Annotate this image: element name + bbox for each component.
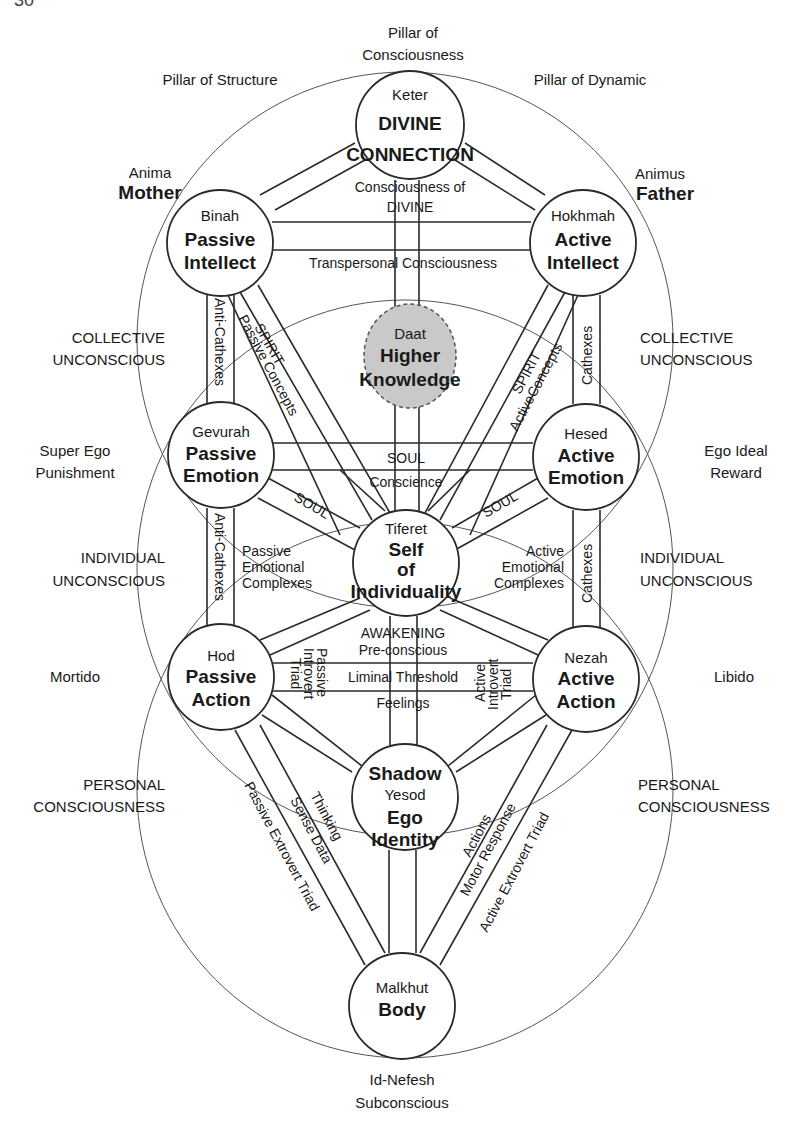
collective-left-line1: COLLECTIVE [72, 329, 165, 346]
cathexes-upper: Cathexes [579, 326, 595, 385]
gevurah-line1: Passive [186, 443, 257, 464]
keter-name: Keter [392, 86, 428, 103]
gevurah-name: Gevurah [192, 423, 250, 440]
hesed-line1: Active [557, 445, 614, 466]
tree-of-life-diagram: 30 [0, 0, 799, 1131]
individual-left-line1: INDIVIDUAL [81, 549, 165, 566]
tiferet-line3: Individuality [351, 581, 462, 602]
cathexes-lower: Cathexes [579, 544, 595, 603]
keter-line1: DIVINE [378, 113, 441, 134]
egoideal-line2: Reward [710, 464, 762, 481]
soul-center: SOUL [387, 450, 425, 466]
pillar-consciousness-line1: Pillar of [388, 24, 439, 41]
binah-line2: Intellect [184, 252, 256, 273]
soul-left: SOUL [292, 489, 333, 522]
yesod-line2: Identity [371, 829, 439, 850]
passive-emotional-line3: Complexes [242, 575, 312, 591]
individual-right-line1: INDIVIDUAL [640, 549, 724, 566]
binah-line1: Passive [185, 229, 256, 250]
tiferet-name: Tiferet [385, 520, 428, 537]
anti-cathexes-upper: Anti-Cathexes [212, 298, 228, 386]
binah-name: Binah [201, 207, 239, 224]
nezah-name: Nezah [564, 649, 607, 666]
feelings-label: Feelings [377, 695, 430, 711]
mortido-label: Mortido [50, 668, 100, 685]
collective-right-line2: UNCONSCIOUS [640, 351, 753, 368]
gevurah-line2: Emotion [183, 465, 259, 486]
personal-right-line1: PERSONAL [638, 776, 720, 793]
superego-line2: Punishment [35, 464, 115, 481]
hod-line1: Passive [186, 666, 257, 687]
daat-name: Daat [394, 325, 427, 342]
consciousness-of-divine-line1: Consciousness of [355, 179, 466, 195]
hesed-line2: Emotion [548, 467, 624, 488]
pillar-dynamic: Pillar of Dynamic [534, 71, 647, 88]
awakening-label: AWAKENING [361, 625, 446, 641]
hod-name: Hod [207, 647, 235, 664]
hod-line2: Action [191, 689, 250, 710]
tiferet-line2: of [397, 559, 416, 580]
superego-line1: Super Ego [40, 442, 111, 459]
personal-left-line2: CONSCIOUSNESS [33, 798, 165, 815]
animus-label: Animus [635, 165, 685, 182]
yesod-line1: Ego [387, 807, 423, 828]
libido-label: Libido [714, 668, 754, 685]
pillar-consciousness-line2: Consciousness [362, 46, 464, 63]
active-emotional-line1: Active [526, 543, 564, 559]
page-number: 30 [14, 0, 34, 10]
preconscious-label: Pre-conscious [359, 642, 448, 658]
egoideal-line1: Ego Ideal [704, 442, 767, 459]
subconscious-label: Subconscious [355, 1094, 448, 1111]
id-nefesh-label: Id-Nefesh [369, 1071, 434, 1088]
individual-right-line2: UNCONSCIOUS [640, 572, 753, 589]
transpersonal-label: Transpersonal Consciousness [309, 255, 497, 271]
keter-line2: CONNECTION [346, 144, 474, 165]
yesod-shadow: Shadow [369, 763, 442, 784]
tiferet-line1: Self [389, 539, 425, 560]
personal-right-line2: CONSCIOUSNESS [638, 798, 770, 815]
personal-left-line1: PERSONAL [83, 776, 165, 793]
active-emotional-line2: Emotional [502, 559, 564, 575]
active-emotional-line3: Complexes [494, 575, 564, 591]
soul-right: SOUL [480, 488, 521, 521]
daat-line1: Higher [380, 345, 441, 366]
collective-left-line2: UNCONSCIOUS [52, 351, 165, 368]
mother-label: Mother [118, 182, 182, 203]
pillar-structure: Pillar of Structure [162, 71, 277, 88]
individual-left-line2: UNCONSCIOUS [52, 572, 165, 589]
malkhut-line1: Body [378, 999, 426, 1020]
anima-label: Anima [129, 164, 172, 181]
passive-emotional-line1: Passive [242, 543, 291, 559]
passive-emotional-line2: Emotional [242, 559, 304, 575]
hokhmah-name: Hokhmah [551, 207, 615, 224]
hesed-name: Hesed [564, 425, 607, 442]
nezah-line1: Active [557, 668, 614, 689]
consciousness-of-divine-line2: DIVINE [387, 199, 434, 215]
hokhmah-line1: Active [554, 229, 611, 250]
active-introvert-line3: Triad [498, 669, 514, 700]
passive-introvert-line3: Triad [288, 658, 304, 689]
liminal-threshold-label: Liminal Threshold [348, 669, 458, 685]
conscience-label: Conscience [369, 474, 442, 490]
father-label: Father [636, 183, 695, 204]
anti-cathexes-lower: Anti-Cathexes [212, 513, 228, 601]
daat-line2: Knowledge [359, 369, 460, 390]
collective-right-line1: COLLECTIVE [640, 329, 733, 346]
yesod-name: Yesod [384, 786, 425, 803]
malkhut-name: Malkhut [376, 979, 429, 996]
hokhmah-line2: Intellect [547, 252, 619, 273]
nezah-line2: Action [556, 691, 615, 712]
